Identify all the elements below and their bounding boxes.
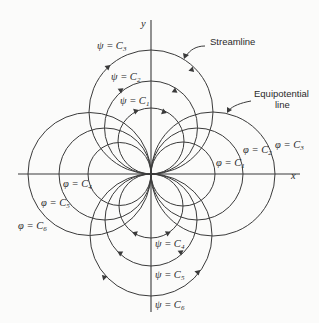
- flow-net-figure: y x Streamline Equipotential line ψ = C1…: [0, 0, 319, 323]
- equipotential-leader: [229, 101, 251, 110]
- arrow-icon: [194, 268, 202, 276]
- phi-c4-label: φ = C4: [63, 178, 92, 191]
- phi-c3-label: φ = C3: [275, 139, 304, 152]
- psi-c5-label: ψ = C5: [155, 269, 185, 282]
- arrow-icon: [188, 66, 196, 74]
- psi-c3-label: ψ = C3: [97, 40, 127, 53]
- psi-c4-label: ψ = C4: [155, 238, 185, 251]
- y-axis-label: y: [140, 18, 146, 29]
- phi-c1-label: φ = C1: [216, 157, 245, 170]
- arrow-icon: [131, 229, 138, 236]
- phi-c6-label: φ = C6: [18, 220, 47, 233]
- arrow-icon: [165, 229, 172, 237]
- streamline-leader: [186, 46, 205, 56]
- psi-c6-label: ψ = C6: [155, 299, 185, 312]
- phi-c2-label: φ = C2: [243, 144, 272, 157]
- doublet-flow-diagram: y x Streamline Equipotential line ψ = C1…: [0, 0, 319, 323]
- equipotential-callout-line2: line: [275, 99, 290, 110]
- phi-c5-label: φ = C5: [41, 197, 70, 210]
- arrow-icon: [172, 87, 180, 95]
- streamline-callout: Streamline: [210, 36, 255, 47]
- equipotential-callout-line1: Equipotential: [254, 88, 309, 99]
- psi-c2-label: ψ = C2: [111, 71, 141, 84]
- psi-c1-label: ψ = C1: [120, 95, 149, 108]
- x-axis-label: x: [290, 170, 296, 181]
